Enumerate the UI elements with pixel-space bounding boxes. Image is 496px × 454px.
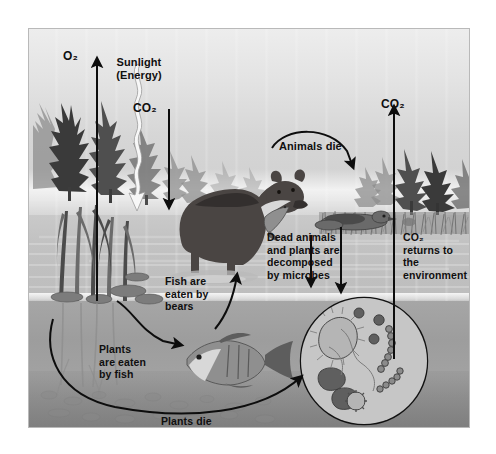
label-fish-eaten: Fish are eaten by bears bbox=[165, 263, 237, 313]
diagram-canvas: O₂ Sunlight (Energy) CO₂ CO₂ Animals die… bbox=[0, 0, 496, 454]
conifer-trees-left bbox=[33, 101, 208, 205]
label-dead-decomposed: Dead animals and plants are decomposed b… bbox=[267, 219, 361, 281]
label-plants-die: Plants die bbox=[161, 403, 212, 428]
ecosystem-illustration: O₂ Sunlight (Energy) CO₂ CO₂ Animals die… bbox=[28, 28, 470, 428]
radial-microbe bbox=[345, 390, 367, 412]
fish bbox=[187, 333, 293, 388]
label-co2-uptake: CO₂ bbox=[133, 87, 157, 115]
label-animals-die: Animals die bbox=[279, 127, 342, 153]
label-sunlight: Sunlight (Energy) bbox=[91, 43, 187, 82]
label-oxygen: O₂ bbox=[63, 35, 78, 63]
label-co2-returns: CO₂ returns to the environment bbox=[403, 219, 470, 281]
label-co2-return: CO₂ bbox=[381, 83, 405, 111]
conifer-trees-right bbox=[354, 149, 470, 215]
microbe-magnifier bbox=[301, 298, 427, 424]
label-plants-eaten: Plants are eaten by fish bbox=[99, 331, 175, 381]
